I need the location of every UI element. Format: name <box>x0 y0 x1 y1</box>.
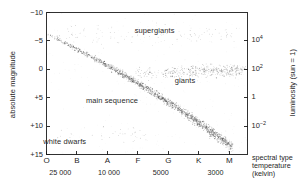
star-point <box>58 37 59 38</box>
star-point <box>200 39 201 40</box>
star-point <box>198 122 199 123</box>
star-point <box>216 67 217 68</box>
star-point <box>110 67 111 68</box>
star-point <box>181 113 182 114</box>
star-point <box>163 149 164 150</box>
star-point <box>179 31 180 32</box>
star-point <box>243 74 244 75</box>
star-point <box>124 83 125 84</box>
star-point <box>111 37 112 38</box>
star-point <box>114 68 115 69</box>
star-point <box>71 21 72 22</box>
star-point <box>237 73 238 74</box>
star-point <box>229 76 230 77</box>
star-point <box>231 115 232 116</box>
star-point <box>133 81 134 82</box>
star-point <box>207 81 208 82</box>
star-point <box>140 92 141 93</box>
star-point <box>159 93 160 94</box>
star-point <box>244 128 245 129</box>
star-point <box>207 68 208 69</box>
star-point <box>110 64 111 65</box>
star-point <box>70 44 71 45</box>
star-point <box>246 140 247 141</box>
star-point <box>104 61 105 62</box>
star-point <box>216 133 217 134</box>
star-point <box>66 38 67 39</box>
star-point <box>172 44 173 45</box>
star-point <box>203 126 204 127</box>
star-point <box>226 144 227 145</box>
star-point <box>170 104 171 105</box>
star-point <box>141 77 142 78</box>
star-point <box>245 119 246 120</box>
star-point <box>139 83 140 84</box>
star-point <box>105 143 106 144</box>
star-point <box>146 139 147 140</box>
star-point <box>218 68 219 69</box>
star-point <box>245 14 246 15</box>
star-point <box>100 30 101 31</box>
star-point <box>54 38 55 39</box>
star-point <box>54 30 55 31</box>
star-point <box>113 65 114 66</box>
star-point <box>220 136 221 137</box>
star-point <box>83 107 84 108</box>
star-point <box>189 118 190 119</box>
star-point <box>173 70 174 71</box>
star-point <box>207 70 208 71</box>
star-point <box>170 76 171 77</box>
star-point <box>211 36 212 37</box>
star-point <box>203 70 204 71</box>
star-point <box>71 153 72 154</box>
star-point <box>158 134 159 135</box>
star-point <box>103 71 104 72</box>
star-point <box>154 72 155 73</box>
star-point <box>146 97 147 98</box>
star-point <box>216 77 217 78</box>
star-point <box>211 64 212 65</box>
star-point <box>225 138 226 139</box>
star-point <box>210 71 211 72</box>
star-point <box>137 81 138 82</box>
star-point <box>156 75 157 76</box>
star-point <box>212 130 213 131</box>
star-point <box>238 73 239 74</box>
star-point <box>158 97 159 98</box>
star-point <box>79 50 80 51</box>
star-point <box>227 143 228 144</box>
star-point <box>75 64 76 65</box>
y-axis-title-right: luminosity (sun = 1) <box>288 41 297 125</box>
star-point <box>163 76 164 77</box>
star-point <box>170 47 171 48</box>
star-point <box>210 64 211 65</box>
star-point <box>226 74 227 75</box>
star-point <box>161 97 162 98</box>
star-point <box>161 98 162 99</box>
star-point <box>80 33 81 34</box>
star-point <box>138 71 139 72</box>
star-point <box>84 36 85 37</box>
star-point <box>87 56 88 57</box>
star-point <box>101 44 102 45</box>
star-point <box>227 67 228 68</box>
star-point <box>130 81 131 82</box>
star-point <box>117 81 118 82</box>
star-point <box>229 144 230 145</box>
star-point <box>75 34 76 35</box>
star-point <box>104 137 105 138</box>
star-point <box>234 47 235 48</box>
star-point <box>50 37 51 38</box>
star-point <box>199 70 200 71</box>
star-point <box>155 42 156 43</box>
star-point <box>149 72 150 73</box>
star-point <box>212 72 213 73</box>
star-point <box>102 149 103 150</box>
star-point <box>204 68 205 69</box>
star-point <box>71 34 72 35</box>
star-point <box>156 96 157 97</box>
star-point <box>157 94 158 95</box>
star-point <box>197 117 198 118</box>
star-point <box>242 72 243 73</box>
star-point <box>189 39 190 40</box>
